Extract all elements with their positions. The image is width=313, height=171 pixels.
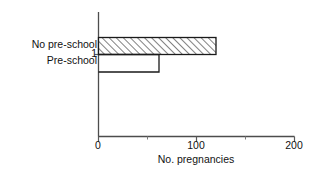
bar-chart: No pre-school Pre-school 1 0 100 200 No.… (0, 0, 313, 171)
bar-pre-school (99, 55, 160, 73)
chart-plot-area (0, 0, 313, 171)
bar-no-pre-school (99, 38, 217, 55)
x-axis-tick-label-0: 0 (88, 140, 108, 151)
y-axis-tick-label-1: 1 (88, 48, 97, 59)
x-axis-title: No. pregnancies (98, 153, 294, 165)
x-axis-tick-label-200: 200 (284, 140, 304, 151)
x-axis-tick-label-100: 100 (186, 140, 206, 151)
